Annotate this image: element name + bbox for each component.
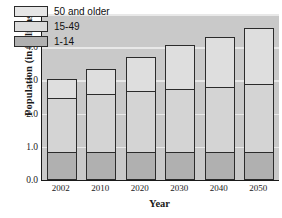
x-axis-title: Year xyxy=(41,198,278,209)
bar-segment-1-14 xyxy=(244,152,274,180)
legend-label-50-and-older: 50 and older xyxy=(54,6,110,17)
bar-2050 xyxy=(244,28,274,180)
legend-swatch-15-49 xyxy=(14,21,48,32)
x-tick-label: 2030 xyxy=(162,183,196,193)
x-axis-tick-labels: 200220102020203020402050 xyxy=(41,183,278,193)
x-tick-label: 2002 xyxy=(44,183,78,193)
population-stacked-bar-chart: Population (in billions) 0.01.02.03.04.0… xyxy=(0,0,282,218)
bar-segment-1-14 xyxy=(205,152,235,180)
y-tick-label: 3.0 xyxy=(12,75,38,85)
bar-2020 xyxy=(126,57,156,180)
chart-legend: 50 and older 15-49 1-14 xyxy=(14,5,110,47)
bar-segment-50-and-older xyxy=(165,45,195,90)
bar-segment-1-14 xyxy=(165,152,195,180)
bar-segment-15-49 xyxy=(47,98,77,153)
x-tick-label: 2010 xyxy=(83,183,117,193)
bar-segment-15-49 xyxy=(126,91,156,154)
bar-segment-15-49 xyxy=(165,89,195,153)
legend-label-1-14: 1-14 xyxy=(54,36,74,47)
bar-2002 xyxy=(47,79,77,180)
legend-swatch-50-and-older xyxy=(14,6,48,17)
bar-segment-50-and-older xyxy=(244,28,274,85)
bar-2010 xyxy=(86,69,116,180)
bar-segment-1-14 xyxy=(126,152,156,180)
y-tick-label: 2.0 xyxy=(12,109,38,119)
x-tick-label: 2050 xyxy=(241,183,275,193)
bar-segment-50-and-older xyxy=(126,57,156,92)
x-tick-label: 2040 xyxy=(202,183,236,193)
legend-swatch-1-14 xyxy=(14,36,48,47)
y-tick-label: 0.0 xyxy=(12,175,38,185)
bar-segment-1-14 xyxy=(86,152,116,180)
bar-2030 xyxy=(165,45,195,180)
x-tick-label: 2020 xyxy=(123,183,157,193)
bar-segment-50-and-older xyxy=(86,69,116,96)
bar-segment-50-and-older xyxy=(205,37,235,89)
bar-segment-1-14 xyxy=(47,152,77,180)
legend-label-15-49: 15-49 xyxy=(54,21,80,32)
legend-item-1-14: 1-14 xyxy=(14,35,110,47)
legend-item-15-49: 15-49 xyxy=(14,20,110,32)
legend-item-50-and-older: 50 and older xyxy=(14,5,110,17)
bar-segment-15-49 xyxy=(205,87,235,153)
bar-segment-15-49 xyxy=(86,94,116,153)
bar-segment-15-49 xyxy=(244,84,274,154)
bar-segment-50-and-older xyxy=(47,79,77,99)
y-tick-label: 1.0 xyxy=(12,142,38,152)
bar-2040 xyxy=(205,37,235,180)
